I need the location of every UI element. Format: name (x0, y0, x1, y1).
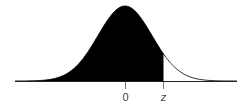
shaded-area (15, 6, 237, 81)
normal-curve-diagram: 0 z (0, 0, 250, 107)
label-z: z (160, 91, 167, 103)
label-mean: 0 (122, 91, 128, 103)
